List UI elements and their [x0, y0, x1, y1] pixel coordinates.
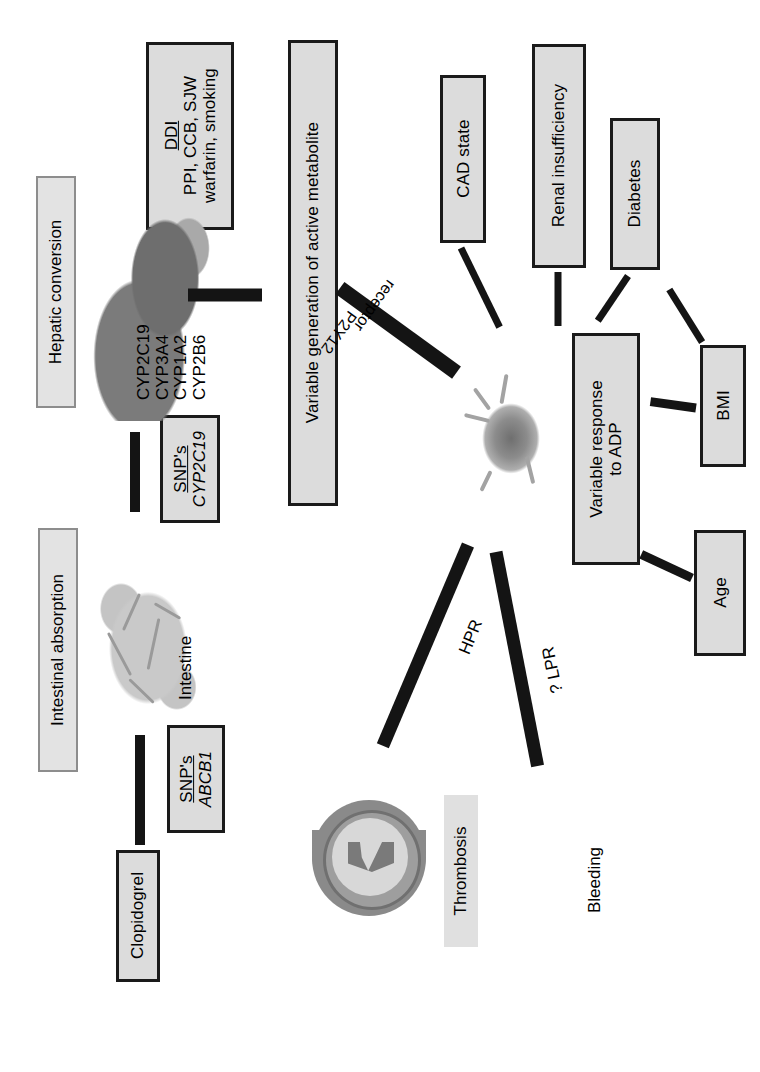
node-variable-response[interactable]: Variable response to ADP	[572, 333, 640, 565]
node-label-ddi-line2: warfarin, smoking	[200, 69, 219, 204]
label-thrombosis-text: Thrombosis	[451, 827, 471, 916]
node-label-diabetes: Diabetes	[625, 160, 644, 228]
vessel-lumen	[332, 818, 408, 896]
node-variable-generation[interactable]: Variable generation of active metabolite	[288, 40, 338, 506]
node-label-renal-insufficiency: Renal insufficiency	[549, 84, 568, 227]
node-age[interactable]: Age	[694, 530, 746, 656]
enzyme-label-cyp3a4: CYP3A4	[154, 324, 173, 400]
node-label-clopidogrel: Clopidogrel	[128, 872, 147, 959]
phase-label-intestinal-absorption: Intestinal absorption	[48, 574, 68, 726]
node-diabetes[interactable]: Diabetes	[610, 118, 660, 270]
phase-bar-intestinal-absorption: Intestinal absorption	[38, 528, 78, 772]
node-snp-cyp2c19[interactable]: SNP's CYP2C19	[160, 415, 220, 523]
phase-label-hepatic-conversion: Hepatic conversion	[46, 220, 66, 365]
intestine-fold	[154, 602, 181, 620]
enzyme-label-cyp1a2: CYP1A2	[172, 324, 191, 400]
phase-bar-hepatic-conversion: Hepatic conversion	[36, 176, 76, 408]
intestine-fold	[128, 678, 155, 704]
node-clopidogrel[interactable]: Clopidogrel	[116, 850, 160, 982]
platelet-image	[462, 370, 558, 490]
node-label-variable-generation: Variable generation of active metabolite	[303, 122, 322, 423]
platelet-pseudopod	[473, 387, 492, 410]
edge-label-hpr: HPR	[455, 617, 487, 658]
node-label-ddi-heading: DDI	[161, 121, 180, 151]
enzyme-label-cyp2b6: CYP2B6	[191, 324, 210, 400]
label-bleeding-text: Bleeding	[585, 847, 605, 913]
node-label-variable-response-line1: Variable response	[587, 380, 606, 517]
node-bmi[interactable]: BMI	[700, 345, 746, 467]
node-cad-state[interactable]: CAD state	[440, 75, 486, 243]
node-label-snp-cyp2c19-gene: CYP2C19	[190, 431, 209, 507]
node-label-snp-cyp2c19-heading: SNP's	[171, 445, 190, 492]
intestine-fold	[107, 632, 132, 676]
node-label-variable-response-line2: to ADP	[606, 422, 625, 476]
node-renal-insufficiency[interactable]: Renal insufficiency	[532, 44, 586, 268]
node-snp-abcb1[interactable]: SNP's ABCB1	[167, 725, 225, 833]
enzyme-label-cyp2c19: CYP2C19	[135, 324, 154, 400]
figure-canvas: Intestinal absorption Hepatic conversion…	[0, 0, 760, 1072]
label-thrombosis: Thrombosis	[444, 795, 478, 947]
node-label-snp-abcb1-gene: ABCB1	[196, 751, 215, 807]
platelet-pseudopod	[479, 470, 492, 492]
node-label-ddi-line1: PPI, CCB, SJW	[180, 76, 199, 195]
node-label-snp-abcb1-heading: SNP's	[177, 755, 196, 802]
edge-label-lpr: ? LPR	[538, 645, 567, 695]
image-label-intestine: Intestine	[176, 636, 196, 700]
node-label-age: Age	[710, 578, 729, 609]
label-bleeding: Bleeding	[578, 820, 612, 940]
node-label-cad-state: CAD state	[453, 120, 472, 198]
vessel-thrombus-image	[310, 790, 430, 938]
intestine-fold	[147, 618, 161, 669]
node-ddi[interactable]: DDI PPI, CCB, SJW warfarin, smoking	[146, 42, 234, 230]
image-label-liver-enzymes: CYP2C19 CYP3A4 CYP1A2 CYP2B6	[135, 324, 210, 400]
node-label-bmi: BMI	[713, 391, 732, 422]
intestine-fold	[122, 593, 141, 631]
